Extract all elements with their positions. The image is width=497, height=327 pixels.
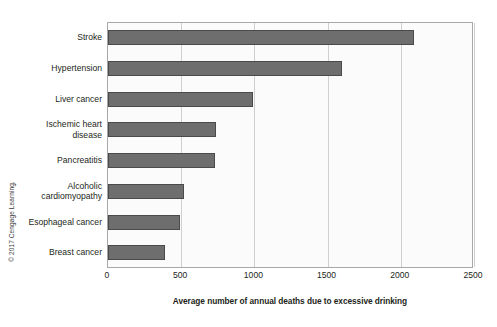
category-label-line: Stroke	[2, 32, 102, 42]
category-label-line: Liver cancer	[2, 94, 102, 104]
x-tick-label: 1000	[244, 270, 263, 280]
category-label-line: Pancreatitis	[2, 155, 102, 165]
category-label-line: Hypertension	[2, 63, 102, 73]
x-tick-label: 2000	[390, 270, 409, 280]
category-label: Ischemic heartdisease	[2, 119, 102, 140]
category-label-line: disease	[2, 130, 102, 140]
bar-row	[108, 208, 472, 239]
x-tick-label: 1500	[317, 270, 336, 280]
category-label-line: cardiomyopathy	[2, 191, 102, 201]
bar	[108, 153, 215, 168]
category-label: Stroke	[2, 32, 102, 42]
bar-row	[108, 177, 472, 208]
bar-row	[108, 23, 472, 54]
x-tick-label: 2500	[463, 270, 482, 280]
category-label: Esophageal cancer	[2, 217, 102, 227]
category-label-line: Esophageal cancer	[2, 217, 102, 227]
category-label: Liver cancer	[2, 94, 102, 104]
bar-row	[108, 238, 472, 269]
x-tick-label: 0	[105, 270, 110, 280]
bar	[108, 215, 180, 230]
bar-row	[108, 115, 472, 146]
bar-chart-figure: © 2017 Cengage Learning. StrokeHypertens…	[0, 0, 497, 327]
bar	[108, 92, 253, 107]
category-axis-labels: StrokeHypertensionLiver cancerIschemic h…	[0, 22, 102, 268]
category-label-line: Ischemic heart	[2, 119, 102, 129]
category-label-line: Alcoholic	[2, 181, 102, 191]
bar	[108, 245, 165, 260]
bar	[108, 30, 414, 45]
x-axis-title: Average number of annual deaths due to e…	[107, 296, 473, 306]
bar-row	[108, 146, 472, 177]
bar	[108, 184, 184, 199]
category-label: Hypertension	[2, 63, 102, 73]
plot-area	[107, 22, 473, 268]
category-label-line: Breast cancer	[2, 247, 102, 257]
x-tick-label: 500	[173, 270, 187, 280]
bar	[108, 122, 216, 137]
gridline	[474, 23, 475, 267]
category-label: Alcoholiccardiomyopathy	[2, 181, 102, 202]
bar-row	[108, 54, 472, 85]
bar	[108, 61, 342, 76]
category-label: Pancreatitis	[2, 155, 102, 165]
category-label: Breast cancer	[2, 247, 102, 257]
bar-row	[108, 85, 472, 116]
x-axis-tick-labels: 05001000150020002500	[107, 270, 473, 284]
